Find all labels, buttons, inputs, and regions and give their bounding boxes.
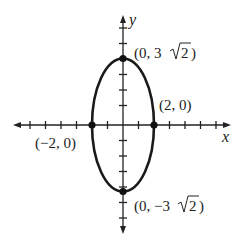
ellipse-graph: y x (0, 3 2 ) (2, 0) (−2, 0) (0, −3 2 )	[0, 0, 234, 235]
top-vertex-label: (0, 3 2 )	[134, 43, 196, 62]
y-axis-bottom-arrow-icon	[120, 226, 126, 234]
point-bottom-vertex	[119, 188, 126, 195]
left-intercept-label: (−2, 0)	[35, 135, 76, 152]
x-axis-label: x	[221, 128, 229, 145]
point-right-intercept	[150, 121, 157, 128]
x-axis-left-arrow-icon	[13, 122, 21, 128]
svg-text:(0, 3: (0, 3	[134, 45, 162, 62]
y-axis-label: y	[127, 11, 137, 29]
x-axis	[13, 121, 231, 129]
svg-text:2: 2	[181, 45, 189, 61]
point-top-vertex	[119, 55, 126, 62]
svg-text:): )	[191, 45, 196, 62]
point-left-intercept	[88, 121, 95, 128]
svg-text:): )	[199, 198, 204, 215]
svg-text:(0, −3: (0, −3	[134, 198, 170, 215]
svg-text:2: 2	[189, 198, 197, 214]
right-intercept-label: (2, 0)	[159, 97, 192, 114]
bottom-vertex-label: (0, −3 2 )	[134, 196, 204, 215]
y-axis-top-arrow-icon	[120, 15, 126, 23]
